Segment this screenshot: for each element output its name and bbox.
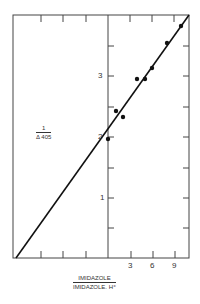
x-tick-9: 9	[172, 261, 176, 270]
y-tick-2: 2	[98, 132, 102, 141]
x-label-denominator: IMIDAZOLE. H⁺	[73, 283, 116, 290]
plot-area	[0, 0, 200, 304]
y-tick-1: 1	[100, 193, 104, 202]
y-label-numerator: 1	[36, 125, 51, 133]
x-axis-label: IMIDAZOLE IMIDAZOLE. H⁺	[73, 275, 116, 290]
y-axis-label: 1 Δ 405	[36, 125, 51, 140]
x-tick-3: 3	[128, 261, 132, 270]
y-label-denominator: Δ 405	[36, 133, 51, 140]
x-label-numerator: IMIDAZOLE	[73, 275, 116, 283]
y-tick-3: 3	[98, 71, 102, 80]
ticks	[41, 15, 189, 258]
data-points	[106, 24, 183, 141]
x-tick-6: 6	[150, 261, 154, 270]
